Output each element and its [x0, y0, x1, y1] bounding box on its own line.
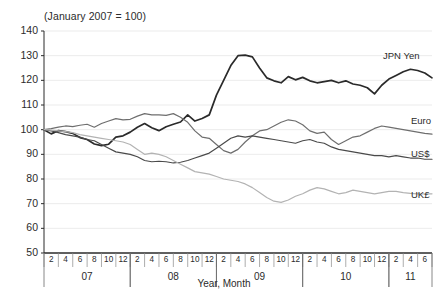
x-axis-month-tick-label: 8	[346, 255, 360, 264]
x-axis-month-tick-label: 6	[418, 255, 432, 264]
gridlines	[44, 31, 432, 253]
series-label-euro: Euro	[411, 115, 431, 126]
y-axis-tick-label: 140	[10, 24, 38, 36]
x-axis-month-tick-label: 4	[231, 255, 245, 264]
x-axis-month-tick-label: 6	[331, 255, 345, 264]
x-axis-month-tick-label: 12	[202, 255, 216, 264]
x-axis-month-tick-label: 6	[159, 255, 173, 264]
x-axis-month-tick-label: 10	[101, 255, 115, 264]
x-axis-caption: Year, Month	[174, 278, 274, 289]
y-axis-tick-label: 100	[10, 123, 38, 135]
y-axis-tick-label: 130	[10, 49, 38, 61]
y-axis-tick-label: 120	[10, 73, 38, 85]
x-axis-month-tick-label: 4	[58, 255, 72, 264]
axes	[44, 31, 432, 253]
x-axis-month-tick-label: 4	[403, 255, 417, 264]
chart-title: (January 2007 = 100)	[44, 10, 146, 22]
y-axis-tick-label: 90	[10, 147, 38, 159]
x-axis-month-tick-label: 8	[87, 255, 101, 264]
x-axis-month-tick-label: 2	[303, 255, 317, 264]
y-axis-tick-label: 50	[10, 246, 38, 258]
y-axis-tick-label: 80	[10, 172, 38, 184]
exchange-rate-chart: (January 2007 = 100) 5060708090100110120…	[0, 0, 448, 299]
x-axis-month-tick-label: 2	[44, 255, 58, 264]
series-line-euro	[44, 114, 432, 153]
series-lines	[44, 55, 432, 202]
x-axis-year-label: 10	[303, 271, 389, 282]
x-axis-month-tick-label: 10	[188, 255, 202, 264]
x-axis-month-tick-label: 4	[317, 255, 331, 264]
series-line-uk-	[44, 130, 432, 203]
x-axis-year-label: 11	[389, 271, 432, 282]
series-label-gbp: UK£	[411, 189, 429, 200]
x-axis-month-tick-label: 10	[360, 255, 374, 264]
x-axis-month-tick-label: 12	[288, 255, 302, 264]
x-axis-month-tick-label: 10	[274, 255, 288, 264]
x-axis-month-tick-label: 6	[245, 255, 259, 264]
x-axis-month-tick-label: 12	[375, 255, 389, 264]
series-label-usd: US$	[411, 148, 429, 159]
y-axis-tick-label: 110	[10, 98, 38, 110]
x-axis-month-tick-label: 2	[216, 255, 230, 264]
y-axis-tick-label: 60	[10, 221, 38, 233]
x-axis-year-label: 07	[44, 271, 130, 282]
x-axis-month-tick-label: 8	[173, 255, 187, 264]
x-axis-month-tick-label: 12	[116, 255, 130, 264]
series-line-jpn-yen	[44, 55, 432, 146]
x-axis-month-tick-label: 8	[260, 255, 274, 264]
y-axis-tick-label: 70	[10, 197, 38, 209]
series-label-jpn-yen: JPN Yen	[383, 50, 419, 61]
x-axis-month-tick-label: 2	[130, 255, 144, 264]
x-axis-month-tick-label: 2	[389, 255, 403, 264]
x-axis-month-tick-label: 6	[73, 255, 87, 264]
x-axis-month-tick-label: 4	[145, 255, 159, 264]
